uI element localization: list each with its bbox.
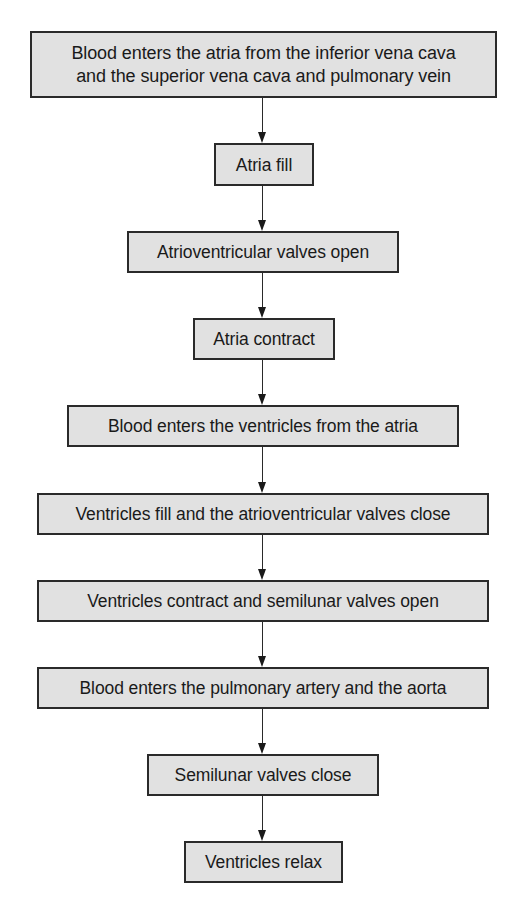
step-ventricles-contract: Ventricles contract and semilunar valves…: [37, 580, 489, 622]
step-ventricles-relax: Ventricles relax: [184, 841, 343, 883]
step-blood-enters-ventricles: Blood enters the ventricles from the atr…: [67, 405, 459, 447]
step-blood-enters-arteries: Blood enters the pulmonary artery and th…: [37, 667, 489, 709]
connector-line: [262, 447, 264, 482]
step-label: Ventricles contract and semilunar valves…: [87, 590, 439, 612]
arrow-down-icon: [258, 307, 266, 318]
step-label: Blood enters the pulmonary artery and th…: [80, 677, 447, 699]
arrow-down-icon: [258, 394, 266, 405]
step-label: Ventricles fill and the atrioventricular…: [75, 503, 450, 525]
cardiac-cycle-flowchart: Blood enters the atria from the inferior…: [0, 0, 516, 910]
arrow-down-icon: [258, 743, 266, 754]
arrow-down-icon: [258, 482, 266, 493]
connector-line: [262, 98, 264, 133]
connector-line: [262, 796, 264, 830]
step-label: Ventricles relax: [205, 851, 322, 873]
step-label: Atria contract: [213, 328, 315, 350]
connector-line: [262, 535, 264, 569]
connector-line: [262, 273, 264, 307]
arrow-down-icon: [258, 132, 266, 143]
connector-line: [262, 709, 264, 743]
connector-line: [262, 360, 264, 394]
step-av-valves-open: Atrioventricular valves open: [127, 231, 399, 273]
arrow-down-icon: [258, 830, 266, 841]
step-label: Blood enters the ventricles from the atr…: [108, 415, 418, 437]
step-ventricles-fill: Ventricles fill and the atrioventricular…: [37, 493, 489, 535]
step-label: Atrioventricular valves open: [157, 241, 369, 263]
step-atria-fill: Atria fill: [214, 143, 314, 186]
connector-line: [262, 622, 264, 656]
arrow-down-icon: [258, 569, 266, 580]
connector-line: [262, 186, 264, 220]
step-label: Blood enters the atria from the inferior…: [71, 42, 455, 88]
step-semilunar-valves-close: Semilunar valves close: [147, 754, 379, 796]
step-blood-enters-atria: Blood enters the atria from the inferior…: [30, 31, 497, 98]
arrow-down-icon: [258, 220, 266, 231]
step-atria-contract: Atria contract: [193, 318, 335, 360]
arrow-down-icon: [258, 656, 266, 667]
step-label: Atria fill: [236, 154, 292, 176]
step-label: Semilunar valves close: [175, 764, 352, 786]
